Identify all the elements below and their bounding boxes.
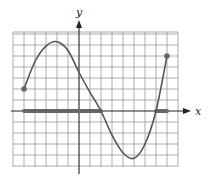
x-axis-arrow-icon [183, 108, 191, 114]
x-axis-label: x [195, 105, 202, 118]
endpoint-marker [164, 53, 170, 59]
graph: x y [0, 0, 211, 187]
y-axis-arrow-icon [76, 20, 82, 28]
y-axis-label: y [75, 6, 83, 19]
endpoint-marker [21, 86, 27, 92]
endpoints [21, 53, 170, 92]
grid [13, 32, 178, 167]
axes: x y [11, 6, 202, 174]
